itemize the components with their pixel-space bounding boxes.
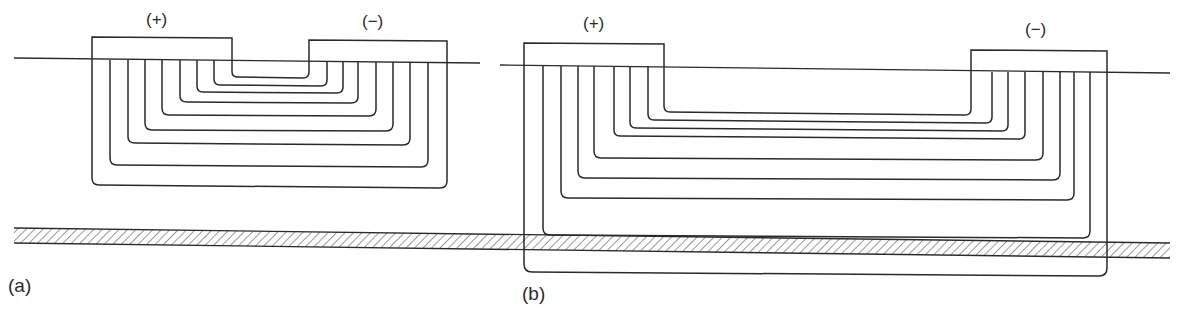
surface-line-b [500,65,1170,73]
electrode-minus-a [309,40,447,62]
panel-label-b: (b) [522,283,545,305]
polarity-minus-a: (−) [362,12,383,32]
polarity-plus-a: (+) [146,10,167,30]
electrode-field-diagram [0,0,1177,310]
panel-label-a: (a) [8,275,31,297]
hatched-layer [14,228,1170,258]
electrode-plus-a [92,37,232,60]
electrode-plus-b [524,43,664,67]
polarity-plus-b: (+) [583,14,604,34]
electrode-minus-b [971,50,1107,72]
polarity-minus-b: (−) [1025,20,1046,40]
